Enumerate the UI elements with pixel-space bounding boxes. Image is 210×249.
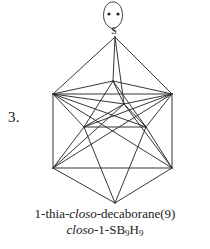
caption: 1-thia-closo-decaborane(9) closo-1-SB9H9: [0, 206, 210, 241]
caption-fragment: closo: [67, 222, 94, 237]
polyhedron-edge: [53, 127, 84, 168]
polyhedron-edge-group: [53, 37, 172, 203]
polyhedron-edge: [124, 104, 172, 168]
caption-fragment: -1-SB: [94, 222, 125, 237]
caption-line-primary: 1-thia-closo-decaborane(9): [0, 206, 210, 222]
polyhedron-edge: [115, 168, 172, 203]
caption-fragment: -decaborane(9): [97, 206, 176, 221]
polyhedron-edge: [84, 81, 113, 127]
atom-label-s: S: [111, 25, 117, 36]
polyhedron-diagram: S: [0, 0, 210, 212]
chemical-structure-figure: 3. S 1-thia-closo-decaborane(9) closo-1-…: [0, 0, 210, 249]
polyhedron-edge: [113, 37, 115, 81]
caption-fragment: H: [130, 222, 139, 237]
vertex-label-group: S: [111, 25, 117, 36]
lone-pair-dot-left: [107, 12, 110, 15]
polyhedron-edge: [53, 37, 115, 94]
caption-fragment: 1-thia-: [35, 206, 70, 221]
polyhedron-edge: [53, 94, 124, 104]
polyhedron-edge: [146, 127, 172, 168]
polyhedron-edge: [53, 104, 124, 168]
polyhedron-edge: [53, 81, 113, 94]
polyhedron-edge: [115, 37, 172, 94]
lone-pair-dot-right: [116, 12, 119, 15]
caption-line-formula: closo-1-SB9H9: [0, 222, 210, 241]
caption-fragment: 9: [139, 228, 144, 238]
polyhedron-edge: [115, 127, 146, 203]
polyhedron-edge: [84, 127, 115, 203]
caption-fragment: closo: [69, 206, 96, 221]
polyhedron-edge: [53, 168, 115, 203]
polyhedron-edge: [53, 94, 146, 127]
